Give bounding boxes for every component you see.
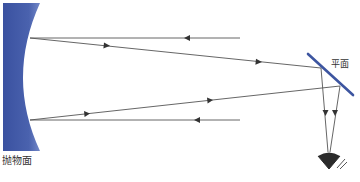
arrow-right-icon xyxy=(84,111,90,117)
arrow-right-icon xyxy=(255,59,262,65)
arrow-right-icon xyxy=(103,43,110,49)
plane-mirror-label: 平面 xyxy=(331,60,349,69)
parabolic-mirror-label: 抛物面 xyxy=(2,156,32,166)
arrow-right-icon xyxy=(207,98,213,104)
arrow-down-icon xyxy=(332,110,338,116)
arrow-left-icon xyxy=(184,35,190,41)
ray-reflected-bottom xyxy=(30,86,340,120)
ray-to-eye-right xyxy=(330,86,340,152)
arrow-down-icon xyxy=(323,110,329,116)
eye-icon xyxy=(318,153,347,170)
reflecting-telescope-diagram xyxy=(0,0,360,182)
light-rays xyxy=(30,38,340,152)
arrow-left-icon xyxy=(194,117,200,123)
ray-reflected-top xyxy=(30,38,321,68)
parabolic-mirror xyxy=(3,3,40,151)
